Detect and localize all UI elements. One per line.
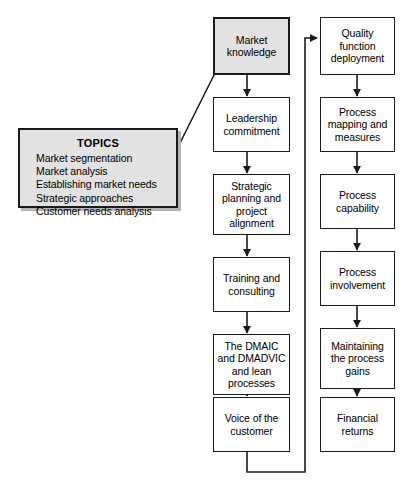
node-label: Leadership commitment	[220, 112, 282, 137]
flowchart-diagram: TOPICS Market segmentation Market analys…	[0, 0, 414, 488]
node-label: The DMAIC and DMADVIC and lean processes	[215, 340, 289, 390]
topics-box: TOPICS Market segmentation Market analys…	[18, 128, 178, 208]
node-label: Voice of the customer	[222, 412, 282, 437]
topics-list: Market segmentation Market analysis Esta…	[36, 152, 176, 218]
node-maintaining-gains: Maintaining the process gains	[320, 328, 395, 389]
node-label: Process capability	[333, 189, 382, 214]
node-label: Financial returns	[334, 412, 381, 437]
node-dmaic-dmadvic: The DMAIC and DMADVIC and lean processes	[213, 334, 290, 395]
node-leadership-commitment: Leadership commitment	[213, 97, 290, 152]
node-label: Process involvement	[327, 266, 388, 291]
node-label: Strategic planning and project alignment	[219, 180, 284, 230]
topics-heading: TOPICS	[36, 137, 160, 149]
node-quality-function-deployment: Quality function deployment	[320, 17, 395, 75]
node-market-knowledge: Market knowledge	[213, 17, 290, 75]
topics-item: Market analysis	[36, 165, 176, 178]
node-process-mapping: Process mapping and measures	[320, 97, 395, 152]
topics-item: Strategic approaches	[36, 192, 176, 205]
node-financial-returns: Financial returns	[320, 397, 395, 452]
topics-item: Customer needs analysis	[36, 205, 176, 218]
topics-item: Market segmentation	[36, 152, 176, 165]
node-label: Process mapping and measures	[325, 106, 391, 143]
node-training-consulting: Training and consulting	[213, 257, 290, 312]
node-label: Market knowledge	[224, 34, 279, 59]
node-label: Quality function deployment	[328, 27, 387, 64]
node-voice-of-customer: Voice of the customer	[213, 397, 290, 452]
node-strategic-planning: Strategic planning and project alignment	[213, 174, 290, 235]
node-process-capability: Process capability	[320, 174, 395, 229]
node-process-involvement: Process involvement	[320, 251, 395, 306]
node-label: Training and consulting	[220, 272, 283, 297]
node-label: Maintaining the process gains	[328, 340, 387, 377]
topics-item: Establishing market needs	[36, 178, 176, 191]
